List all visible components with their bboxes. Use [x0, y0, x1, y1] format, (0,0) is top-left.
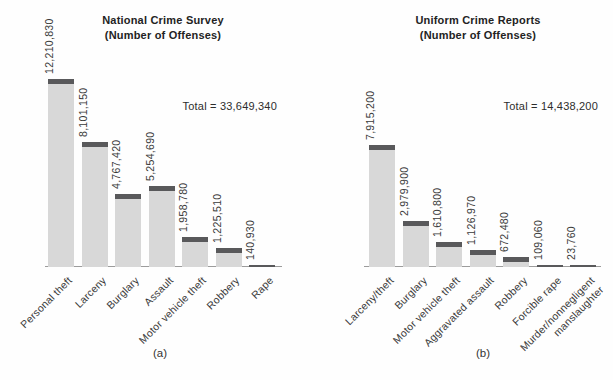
- bar-cap: [82, 142, 108, 147]
- total-label: Total = 33,649,340: [183, 100, 277, 112]
- bar-value-label: 140,930: [244, 220, 256, 260]
- bar-cap: [182, 237, 208, 242]
- bar: [537, 265, 563, 267]
- bar-cap: [369, 145, 395, 150]
- bar: [503, 257, 529, 267]
- bar: [115, 194, 141, 267]
- chart-title: Uniform Crime Reports (Number of Offense…: [363, 13, 593, 42]
- category-label: Larceny: [72, 274, 108, 310]
- bar-cap: [48, 79, 74, 84]
- bar: [249, 265, 275, 267]
- bar-value-label: 1,958,780: [177, 182, 189, 231]
- bar-cap: [216, 248, 242, 253]
- total-label: Total = 14,438,200: [504, 100, 598, 112]
- category-label: Larceny/theft: [342, 274, 396, 328]
- chart-title-line2: (Number of Offenses): [48, 28, 278, 43]
- bar-cap: [537, 265, 563, 267]
- bar-value-label: 1,610,800: [431, 188, 443, 237]
- bar-value-label: 672,480: [498, 212, 510, 252]
- bar-cap: [503, 257, 529, 262]
- bar: [82, 142, 108, 267]
- bar-value-label: 4,767,420: [110, 139, 122, 188]
- category-label: Rape: [249, 274, 276, 301]
- bar: [570, 265, 596, 267]
- bar-value-label: 2,979,900: [398, 167, 410, 216]
- bar-cap: [570, 265, 596, 267]
- bar-value-label: 23,760: [565, 226, 577, 260]
- chart-title: National Crime Survey (Number of Offense…: [48, 13, 278, 42]
- bar: [149, 186, 175, 267]
- bar-cap: [249, 265, 275, 267]
- bar-value-label: 8,101,150: [77, 88, 89, 137]
- bar-cap: [149, 186, 175, 191]
- crime-comparison-figure: National Crime Survey (Number of Offense…: [0, 0, 613, 380]
- bar: [436, 242, 462, 267]
- bar: [48, 79, 74, 267]
- bar-cap: [403, 221, 429, 226]
- subfigure-caption-a: (a): [153, 347, 167, 359]
- chart-title-line1: Uniform Crime Reports: [363, 13, 593, 28]
- category-label: Personal theft: [18, 274, 75, 331]
- bar: [470, 250, 496, 267]
- chart-uniform-crime-reports: Uniform Crime Reports (Number of Offense…: [306, 0, 613, 380]
- bar-value-label: 109,060: [532, 220, 544, 260]
- subfigure-caption-b: (b): [476, 347, 490, 359]
- bar-cap: [470, 250, 496, 255]
- category-label: Murder/nonnegligent manslaughter: [517, 274, 605, 362]
- bar: [369, 145, 395, 267]
- category-label: Robbery: [204, 274, 242, 312]
- bar-value-label: 5,254,690: [144, 132, 156, 181]
- bar-value-label: 1,225,510: [211, 194, 223, 243]
- bar-value-label: 1,126,970: [465, 195, 477, 244]
- bar-cap: [115, 194, 141, 199]
- bar: [216, 248, 242, 267]
- bar-cap: [436, 242, 462, 247]
- bar: [182, 237, 208, 267]
- bar-value-label: 12,210,830: [43, 19, 55, 75]
- category-label: Burglary: [104, 274, 142, 312]
- bar: [403, 221, 429, 267]
- chart-title-line2: (Number of Offenses): [363, 28, 593, 43]
- chart-title-line1: National Crime Survey: [48, 13, 278, 28]
- chart-national-crime-survey: National Crime Survey (Number of Offense…: [0, 0, 307, 380]
- bar-value-label: 7,915,200: [364, 91, 376, 140]
